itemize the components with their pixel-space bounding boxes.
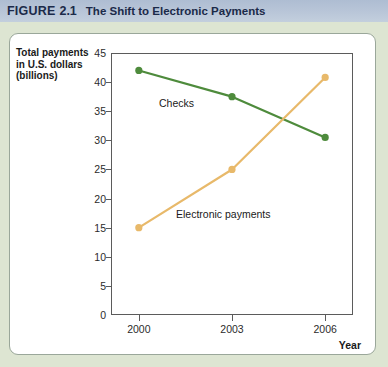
y-tick-label-40: 40 <box>82 76 106 88</box>
plot-frame <box>111 53 353 315</box>
y-tick-label-5: 5 <box>82 280 106 292</box>
x-tick-label-2006: 2006 <box>313 323 336 335</box>
y-tick-label-45: 45 <box>82 47 106 59</box>
plot-area <box>111 53 353 315</box>
y-tick-label-35: 35 <box>82 105 106 117</box>
x-tick-mark-2006 <box>325 315 326 321</box>
x-axis-tick-marks <box>111 315 353 321</box>
x-tick-mark-2000 <box>139 315 140 321</box>
y-tick-label-0: 0 <box>82 309 106 321</box>
x-tick-mark-2003 <box>232 315 233 321</box>
y-tick-label-20: 20 <box>82 193 106 205</box>
figure-header-band: FIGURE 2.1 The Shift to Electronic Payme… <box>0 0 388 22</box>
x-tick-label-2000: 2000 <box>127 323 150 335</box>
x-axis-title: Year <box>339 339 361 351</box>
series-label-checks: Checks <box>159 97 194 109</box>
y-tick-label-15: 15 <box>82 222 106 234</box>
figure-word: FIGURE <box>7 4 55 18</box>
y-tick-label-10: 10 <box>82 251 106 263</box>
series-label-electronic-payments: Electronic payments <box>176 208 271 220</box>
x-tick-label-2003: 2003 <box>220 323 243 335</box>
x-axis-tick-labels: 200020032006 <box>111 323 353 337</box>
figure-number: 2.1 <box>59 4 76 18</box>
figure-title: The Shift to Electronic Payments <box>86 5 266 17</box>
y-tick-label-25: 25 <box>82 163 106 175</box>
y-tick-label-30: 30 <box>82 134 106 146</box>
y-axis-tick-labels: 051015202530354045 <box>82 53 106 315</box>
